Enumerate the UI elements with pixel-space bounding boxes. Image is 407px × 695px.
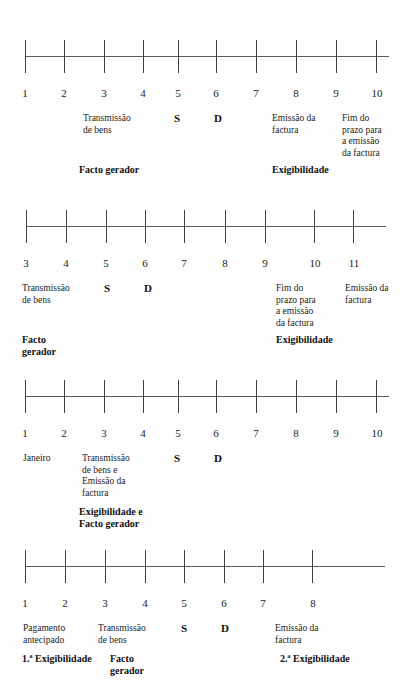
axis-tick [25,380,26,413]
event-note-pagamento-antecipado: Pagamento antecipado [23,623,65,646]
tick-label: 8 [222,257,228,269]
label-exigibilidade: Exigibilidade [276,334,333,346]
axis-tick [145,210,146,243]
axis-tick [376,380,377,413]
axis-tick [65,550,66,583]
tick-label: 5 [175,87,181,99]
axis-tick [256,40,257,73]
axis-tick [104,40,105,73]
tick-label: 4 [140,87,146,99]
axis-tick [336,40,337,73]
axis-tick [263,550,264,583]
axis-tick [224,550,225,583]
event-note-transmissao-emissao: Transmissão de bens e Emissão da factura [82,453,130,499]
axis-tick [353,210,354,243]
tick-label: 5 [175,427,181,439]
axis-tick [336,380,337,413]
axis-tick [66,210,67,243]
timeline-1-axis [0,40,407,74]
tick-label: 4 [63,257,69,269]
axis-line [26,226,386,227]
axis-tick [178,40,179,73]
label-facto-gerador: Facto gerador [110,653,144,677]
tick-label: 1 [22,427,28,439]
tick-label: 9 [333,87,339,99]
axis-tick [25,40,26,73]
tick-label: 3 [101,427,107,439]
timeline-3-tick-labels: 1 2 3 4 5 6 7 8 9 10 [0,427,407,443]
event-note-janeiro: Janeiro [23,453,50,465]
axis-tick [184,210,185,243]
label-facto-gerador: Facto gerador [79,164,139,176]
tick-label: 1 [22,597,28,609]
tick-label: 7 [253,87,259,99]
tick-label: 2 [61,427,67,439]
tick-label: 1 [22,87,28,99]
tick-label: 11 [349,257,360,269]
tick-label: 7 [260,597,266,609]
axis-tick [256,380,257,413]
axis-tick [216,40,217,73]
tick-label: 9 [333,427,339,439]
event-note-transmissao: Transmissão de bens [22,283,70,306]
tick-label: 6 [213,87,219,99]
label-exigibilidade-facto-gerador: Exigibilidade e Facto gerador [79,506,143,530]
axis-tick [106,210,107,243]
tick-label: 5 [181,597,187,609]
tick-label: 4 [140,427,146,439]
axis-tick [184,550,185,583]
tick-label: 2 [61,87,67,99]
event-note-fim-prazo: Fim do prazo para a emissão da factura [342,113,382,159]
timeline-4-axis [0,550,407,584]
event-marker-sunday: D [144,282,152,294]
axis-tick [296,380,297,413]
axis-tick [312,550,313,583]
axis-tick [376,40,377,73]
timeline-1-tick-labels: 1 2 3 4 5 6 7 8 9 10 [0,87,407,103]
event-marker-saturday: S [104,282,110,294]
tick-label: 8 [310,597,316,609]
tick-label: 5 [103,257,109,269]
event-marker-sunday: D [214,112,222,124]
axis-tick [145,550,146,583]
axis-line [25,396,389,397]
tick-label: 6 [142,257,148,269]
axis-tick [26,210,27,243]
label-exigibilidade: Exigibilidade [272,164,329,176]
tick-label: 3 [102,597,108,609]
tick-label: 7 [181,257,187,269]
axis-tick [314,210,315,243]
tick-label: 3 [23,257,29,269]
axis-tick [178,380,179,413]
tick-label: 3 [101,87,107,99]
axis-line [25,566,385,567]
event-note-transmissao: Transmissão de bens [98,623,146,646]
tick-label: 9 [262,257,268,269]
tick-label: 6 [213,427,219,439]
axis-line [25,56,389,57]
axis-tick [143,380,144,413]
axis-tick [296,40,297,73]
tick-label: 10 [372,87,383,99]
event-note-emissao-factura: Emissão da factura [345,283,389,306]
event-marker-saturday: S [174,452,180,464]
timeline-3-axis [0,380,407,414]
label-facto-gerador: Facto gerador [22,334,56,358]
label-primeira-exigibilidade: 1.ª Exigibilidade [22,653,92,665]
axis-tick [225,210,226,243]
tick-label: 4 [142,597,148,609]
tick-label: 8 [293,87,299,99]
tick-label: 7 [253,427,259,439]
axis-tick [105,550,106,583]
event-marker-sunday: D [214,452,222,464]
event-note-emissao-factura: Emissão da factura [272,113,316,136]
event-marker-sunday: D [221,622,229,634]
event-note-fim-prazo: Fim do prazo para a emissão da factura [276,283,316,329]
tick-label: 10 [310,257,321,269]
axis-tick [25,550,26,583]
timeline-4-tick-labels: 1 2 3 4 5 6 7 8 [0,597,407,613]
axis-tick [265,210,266,243]
event-marker-saturday: S [174,112,180,124]
document-page: 1 2 3 4 5 6 7 8 9 10 Transmissão de bens… [0,0,407,695]
tick-label: 6 [221,597,227,609]
